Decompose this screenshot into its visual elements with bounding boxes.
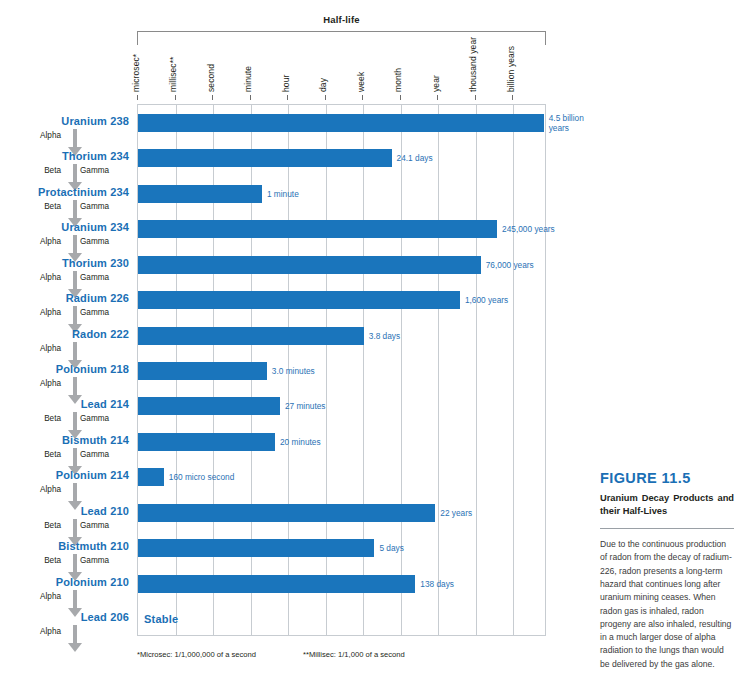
- chart-row: 22 years: [138, 504, 545, 522]
- arrow-shaft: [73, 271, 77, 290]
- axis-tick-mark: [250, 95, 251, 100]
- axis-tick-labels: microsec*millisec**secondminutehourdaywe…: [0, 0, 742, 100]
- emission-label-left: Alpha: [40, 308, 61, 317]
- emission-label-right: Gamma: [80, 450, 109, 459]
- emission-label-right: Gamma: [80, 166, 109, 175]
- arrow-shaft: [73, 129, 77, 148]
- emission-label-left: Beta: [44, 202, 61, 211]
- bar-value-label: 76,000 years: [486, 259, 534, 269]
- bar: [138, 397, 280, 415]
- nuclide-label: Radon 222: [72, 328, 129, 340]
- emission-label-right: Gamma: [80, 556, 109, 565]
- nuclide-label: Protactinium 234: [38, 186, 129, 198]
- nuclide-label: Polonium 210: [56, 576, 129, 588]
- emission-label-left: Beta: [44, 521, 61, 530]
- nuclide-label: Radium 226: [66, 292, 129, 304]
- nuclide-label: Lead 206: [81, 611, 129, 623]
- chart-row: 138 days: [138, 575, 545, 593]
- bar-value-label: 27 minutes: [285, 401, 326, 411]
- bar: [138, 327, 364, 345]
- arrow-shaft: [73, 235, 77, 254]
- bar: [138, 504, 435, 522]
- bar: [138, 539, 374, 557]
- nuclide-label: Uranium 234: [61, 221, 129, 233]
- nuclide-label: Uranium 238: [61, 115, 129, 127]
- bar-value-label: 160 micro second: [169, 472, 235, 482]
- arrow-shaft: [73, 306, 77, 325]
- caption-divider: [600, 528, 734, 529]
- arrow-shaft: [73, 164, 77, 183]
- bar: [138, 433, 275, 451]
- bar: [138, 114, 544, 132]
- emission-label-left: Alpha: [40, 592, 61, 601]
- axis-tick-mark: [175, 95, 176, 100]
- axis-tick-mark: [287, 95, 288, 100]
- chart-row: 27 minutes: [138, 397, 545, 415]
- bar-value-label: 138 days: [420, 579, 454, 589]
- arrow-shaft: [73, 483, 77, 502]
- axis-tick-mark: [437, 95, 438, 100]
- arrow-shaft: [73, 412, 77, 431]
- emission-label-left: Alpha: [40, 627, 61, 636]
- emission-label-left: Alpha: [40, 485, 61, 494]
- chart-row: 1,600 years: [138, 291, 545, 309]
- emission-label-left: Beta: [44, 556, 61, 565]
- bar: [138, 468, 164, 486]
- emission-label-left: Alpha: [40, 273, 61, 282]
- stable-label: Stable: [144, 613, 178, 625]
- nuclide-label: Polonium 214: [56, 469, 129, 481]
- axis-tick-mark: [325, 95, 326, 100]
- arrow-shaft: [73, 590, 77, 609]
- bar-value-label: 245,000 years: [502, 224, 555, 234]
- chart-plot-area: 4.5 billion years24.1 days1 minute245,00…: [137, 104, 546, 636]
- chart-row: 20 minutes: [138, 433, 545, 451]
- chart-row: 245,000 years: [138, 220, 545, 238]
- bar-value-label: 1,600 years: [465, 295, 508, 305]
- chart-row: 160 micro second: [138, 468, 545, 486]
- arrow-shaft: [73, 200, 77, 219]
- figure-root: Half-life microsec*millisec**secondminut…: [0, 0, 742, 693]
- emission-label-left: Alpha: [40, 237, 61, 246]
- axis-tick-label: month: [393, 68, 403, 92]
- decay-step: Alpha: [0, 625, 137, 655]
- bar: [138, 185, 262, 203]
- emission-label-right: Gamma: [80, 521, 109, 530]
- chart-row: 5 days: [138, 539, 545, 557]
- axis-tick-mark: [475, 95, 476, 100]
- nuclide-label: Bismuth 214: [62, 434, 129, 446]
- emission-label-left: Alpha: [40, 131, 61, 140]
- chart-row: Stable: [138, 610, 545, 628]
- axis-tick-label: hour: [281, 75, 291, 92]
- decay-arrow-icon: [68, 625, 82, 653]
- emission-label-right: Gamma: [80, 414, 109, 423]
- axis-tick-label: millisec**: [168, 57, 178, 92]
- bar: [138, 220, 497, 238]
- emission-label-left: Beta: [44, 166, 61, 175]
- nuclide-label: Lead 214: [81, 398, 129, 410]
- axis-tick-label: thousand year: [468, 37, 478, 92]
- bar-value-label: 3.8 days: [369, 330, 400, 340]
- axis-tick-mark: [400, 95, 401, 100]
- chart-row: 76,000 years: [138, 256, 545, 274]
- nuclide-label: Thorium 234: [62, 150, 129, 162]
- axis-tick-label: minute: [243, 66, 253, 92]
- bar: [138, 256, 481, 274]
- footnote-microsec: *Microsec: 1/1,000,000 of a second: [137, 650, 256, 659]
- arrow-shaft: [73, 342, 77, 361]
- axis-tick-label: day: [318, 78, 328, 92]
- axis-tick-mark: [137, 95, 138, 100]
- figure-caption-body: Due to the continuous production of rado…: [600, 538, 734, 671]
- chart-row: 3.8 days: [138, 327, 545, 345]
- figure-number: FIGURE 11.5: [600, 470, 734, 486]
- emission-label-left: Alpha: [40, 344, 61, 353]
- figure-caption-panel: FIGURE 11.5 Uranium Decay Products and t…: [600, 470, 734, 671]
- bar-value-label: 1 minute: [267, 188, 299, 198]
- axis-tick-label: week: [356, 72, 366, 92]
- arrow-shaft: [73, 554, 77, 573]
- chart-row: 4.5 billion years: [138, 114, 545, 132]
- arrow-shaft: [73, 377, 77, 396]
- axis-tick-label: year: [431, 75, 441, 92]
- emission-label-right: Gamma: [80, 273, 109, 282]
- bar: [138, 575, 415, 593]
- emission-label-right: Gamma: [80, 308, 109, 317]
